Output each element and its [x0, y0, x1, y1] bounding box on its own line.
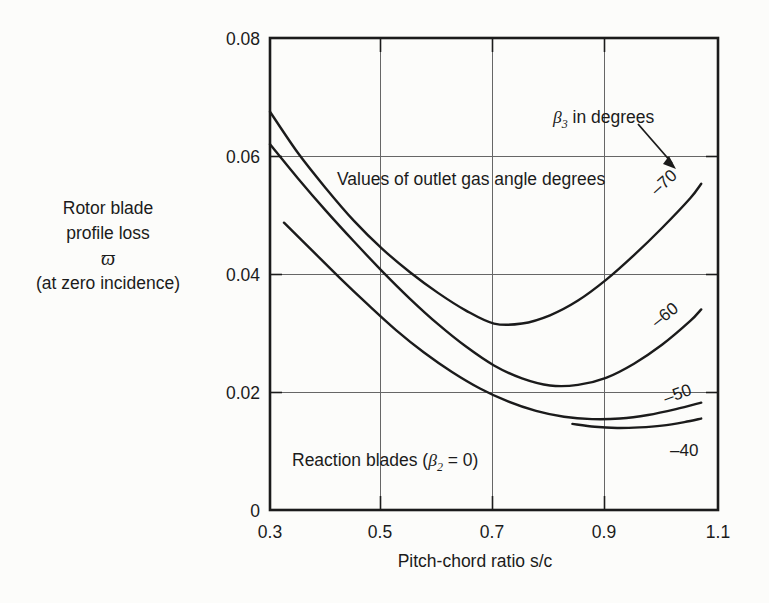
curve-label-minus-50: –50 [661, 380, 694, 408]
x-tick-label-0.5: 0.5 [368, 522, 392, 542]
y-tick-labels: 0.08 0.06 0.04 0.02 0 [226, 29, 260, 521]
reaction-beta-symbol: β [427, 450, 437, 470]
beta3-arrow [638, 124, 676, 169]
beta3-annotation: β3 in degrees [552, 107, 655, 131]
beta3-subscript: 3 [561, 117, 568, 131]
curve-label-minus-70: –70 [647, 166, 681, 199]
y-axis-title-line-1: Rotor blade [8, 196, 208, 221]
y-axis-title-symbol: ϖ [8, 246, 208, 271]
outlet-gas-angle-annotation: Values of outlet gas angle degrees [337, 169, 605, 189]
arrow-head [663, 156, 676, 169]
y-axis-title: Rotor blade profile loss ϖ (at zero inci… [8, 196, 208, 296]
x-tick-label-0.9: 0.9 [592, 522, 616, 542]
curve-label-minus-40: –40 [670, 441, 698, 460]
series-paths [270, 112, 701, 428]
y-tick-label-0.02: 0.02 [226, 383, 260, 403]
y-tick-label-0.04: 0.04 [226, 265, 260, 285]
y-tick-label-0.08: 0.08 [226, 29, 260, 49]
x-tick-labels: 0.3 0.5 0.7 0.9 1.1 [258, 522, 730, 542]
beta3-annotation-rest: in degrees [568, 107, 655, 127]
arrow-shaft [638, 124, 672, 163]
y-tick-label-0: 0 [250, 501, 260, 521]
y-axis-title-line-2: profile loss [8, 221, 208, 246]
reaction-suffix: = 0) [443, 450, 479, 470]
x-tick-label-1.1: 1.1 [706, 522, 730, 542]
x-tick-label-0.3: 0.3 [258, 522, 282, 542]
y-axis-title-line-4: (at zero incidence) [8, 271, 208, 296]
beta3-symbol: β [552, 107, 562, 127]
reaction-prefix: Reaction blades ( [292, 450, 428, 470]
chart-svg: 0.08 0.06 0.04 0.02 0 0.3 0.5 0.7 0.9 1.… [0, 0, 769, 603]
reaction-blades-annotation: Reaction blades (β2 = 0) [292, 450, 478, 474]
y-tick-label-0.06: 0.06 [226, 147, 260, 167]
curve-label-minus-60: –60 [648, 299, 682, 331]
chart-figure: Rotor blade profile loss ϖ (at zero inci… [0, 0, 769, 603]
x-tick-label-0.7: 0.7 [480, 522, 504, 542]
x-axis-title: Pitch-chord ratio s/c [330, 551, 620, 572]
series-path-minus-70 [270, 112, 701, 325]
